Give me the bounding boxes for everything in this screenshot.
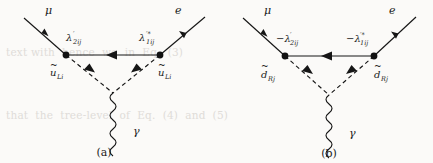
sfermion-right-symbol-a: u [158,67,164,78]
coupling-left-sub-b: 2ij [289,39,298,47]
electron-arrow-a [179,31,187,38]
electron-label-a: e [175,4,182,17]
diagram-b: μ e γ −λ ′ 2ij −λ ′* 1ij [216,0,433,163]
sfermion-left-symbol-a: u [50,67,56,78]
vertex-right-a [157,52,164,59]
sfermion-right-label-a: ~ u Li [158,60,171,81]
sfermion-left-label-b: ~ d Rj [261,61,275,83]
coupling-right-prime-a: ′* [146,30,151,38]
coupling-left-label-a: λ ′ 2ij [65,30,81,46]
caption-a: (a) [96,146,111,159]
coupling-right-sub-a: 1ij [146,38,154,46]
sfermion-right-label-b: ~ d Rj [374,61,388,83]
diagram-a: μ e γ λ ′ 2ij λ ′* 1ij [0,0,216,163]
vertex-left-a [63,52,70,59]
muon-label-a: μ [45,4,52,17]
photon-label-a: γ [133,125,140,138]
coupling-left-sub-a: 2ij [72,38,81,46]
squark-right-line-a [113,55,160,93]
coupling-left-label-b: −λ ′ 2ij [276,31,298,47]
vertex-left-b [282,53,289,60]
photon-label-b: γ [349,127,356,140]
sfermion-left-sub-b: Rj [267,75,275,83]
sfermion-left-symbol-b: d [261,69,267,80]
coupling-left-symbol-b: −λ [276,33,291,44]
figure-canvas: text with hence we in Eq. (3) that the t… [0,0,433,163]
internal-fermion-arrow-a [106,51,117,60]
coupling-right-label-a: λ ′* 1ij [138,30,154,46]
sfermion-left-label-a: ~ u Li [50,60,63,81]
muon-arrow-b [261,29,268,37]
vertex-right-b [371,53,378,60]
sfermion-right-symbol-b: d [374,69,380,80]
electron-arrow-b [391,32,399,39]
squark-left-line-b [285,56,329,95]
sfermion-right-sub-a: Li [164,73,171,81]
coupling-left-prime-b: ′ [290,31,292,39]
muon-label-b: μ [264,4,271,17]
electron-label-b: e [389,4,396,17]
coupling-left-symbol-a: λ [65,32,72,43]
coupling-right-sub-b: 1ij [360,39,368,47]
sfermion-right-sub-b: Rj [380,75,388,83]
squark-right-line-b [329,56,374,95]
coupling-right-prime-b: ′* [360,31,365,39]
coupling-right-symbol-a: λ [138,32,145,43]
muon-leg-line-a [24,18,66,55]
coupling-right-label-b: −λ ′* 1ij [346,31,368,47]
coupling-right-symbol-b: −λ [346,33,361,44]
internal-fermion-arrow-b [321,52,332,61]
squark-left-line-a [66,55,113,93]
caption-b: (b) [321,147,337,160]
coupling-left-prime-a: ′ [73,30,75,38]
sfermion-left-sub-a: Li [56,73,63,81]
